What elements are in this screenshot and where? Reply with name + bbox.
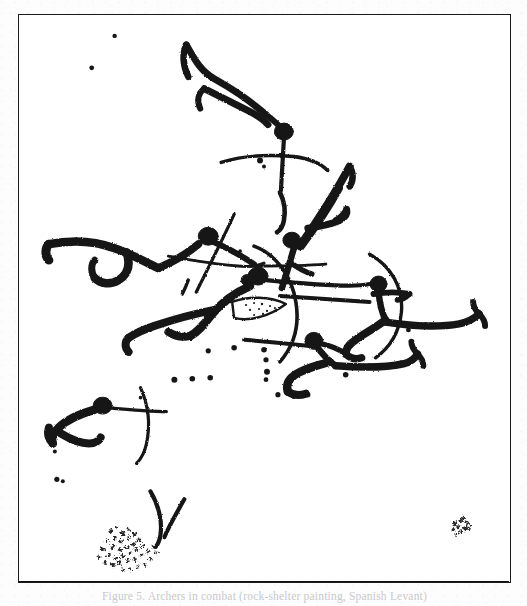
archer-left-running [46,214,264,294]
stipple-blob-small [451,516,471,536]
archer-lower-left [48,388,166,464]
stipple-blob-large [97,525,158,571]
archer-right [346,254,485,358]
archer-top-falling [184,45,328,232]
dot-marks [53,34,460,484]
archer-centre-leaning [250,166,353,361]
figure-caption: Figure 5. Archers in combat (rock-shelte… [18,589,511,606]
scanned-page: Figure 5. Archers in combat (rock-shelte… [0,0,527,606]
figure-plate-frame [18,14,511,583]
stippled-shield-shape [232,298,286,319]
curved-stroke-pair [150,491,184,547]
rock-art-drawing [19,15,510,582]
archer-lower-centre [244,332,423,395]
